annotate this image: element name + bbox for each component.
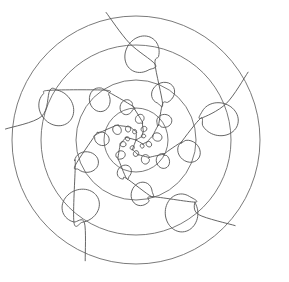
figure-root [0, 0, 289, 282]
figure-background [0, 0, 289, 282]
spiral-figure-canvas [0, 0, 289, 282]
